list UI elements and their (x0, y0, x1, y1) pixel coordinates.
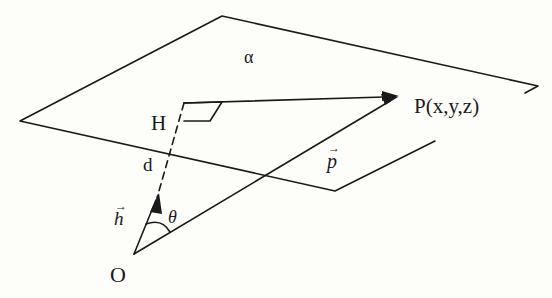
arrowhead-h (150, 193, 162, 214)
diagram-canvas (0, 0, 552, 298)
origin-label-O: O (110, 264, 126, 286)
vector-label-h: → h (114, 209, 124, 228)
angle-label-theta: θ (168, 208, 177, 226)
vector-label-p: → p (327, 151, 337, 171)
vector-arrow-icon: → (115, 200, 127, 212)
plane-label-alpha: α (244, 48, 253, 66)
angle-theta-arc (146, 222, 170, 232)
vector-arrow-icon: → (328, 142, 340, 154)
right-angle-marker (184, 102, 222, 121)
distance-label-d: d (143, 155, 153, 174)
point-label-P: P(x,y,z) (414, 96, 479, 117)
point-label-H: H (151, 113, 166, 134)
vector-p-line (134, 101, 390, 254)
